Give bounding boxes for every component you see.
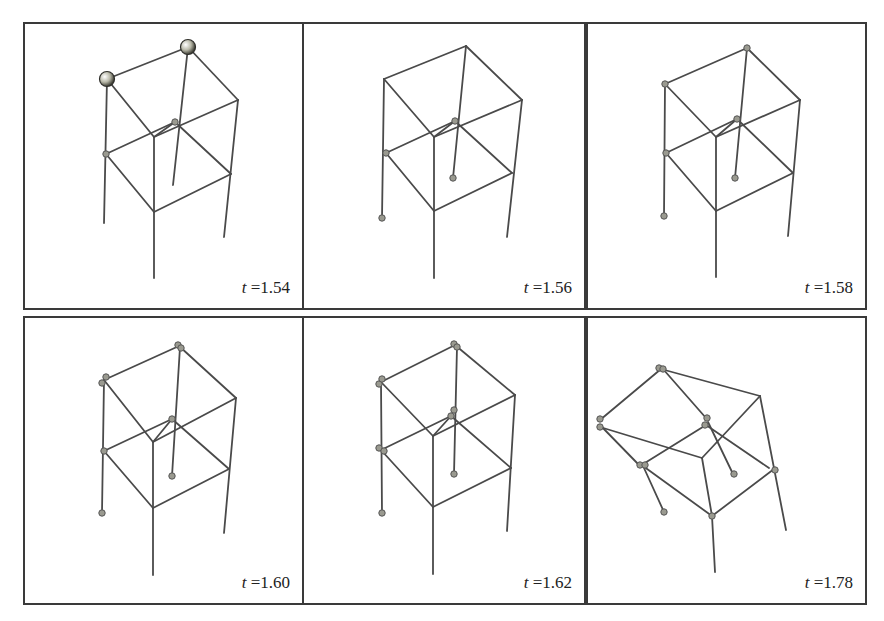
frame-member-line	[154, 100, 238, 137]
frame-member-line	[104, 346, 179, 380]
frame-panel-p4: t =1.60	[23, 316, 304, 605]
frame-member-line	[179, 346, 236, 398]
time-label: t =1.58	[805, 278, 853, 298]
fracture-node-icon	[661, 213, 667, 219]
fracture-node-icon	[662, 81, 668, 87]
frame-panel-p2: t =1.56	[302, 22, 586, 310]
fracture-node-icon	[451, 471, 457, 477]
time-label: t =1.78	[805, 573, 853, 593]
frame-member-line	[453, 46, 466, 178]
fracture-node-icon	[103, 151, 109, 157]
frame-member-line	[153, 469, 229, 508]
frame-member-line	[107, 79, 154, 137]
frame-member-line	[154, 174, 231, 212]
fracture-node-icon	[450, 175, 456, 181]
frame-member-line	[643, 466, 712, 516]
fracture-node-icon	[702, 422, 708, 428]
time-label: t =1.54	[242, 278, 290, 298]
frame-member-line	[102, 380, 104, 513]
fracture-node-icon	[744, 45, 750, 51]
frame-member-line	[716, 100, 800, 137]
frame-member-line	[712, 516, 715, 572]
frame-member-line	[153, 398, 236, 442]
fracture-node-icon	[642, 462, 648, 468]
frame-member-line	[455, 121, 512, 173]
frame-panel-p5: t =1.62	[302, 316, 586, 605]
frame-member-line	[600, 425, 640, 466]
fracture-node-icon	[169, 416, 175, 422]
frame-member-line	[104, 380, 153, 442]
fracture-node-icon	[663, 150, 669, 156]
fracture-node-icon	[379, 510, 385, 516]
frame-member-line	[702, 458, 712, 516]
frame-member-line	[433, 468, 511, 507]
frame-member-line	[666, 153, 716, 211]
frame-member-line	[104, 451, 153, 508]
frame-member-line	[747, 48, 800, 100]
frame-member-line	[175, 122, 231, 174]
mass-sphere-icon	[181, 40, 196, 55]
fracture-node-icon	[660, 366, 666, 372]
frame-structure-drawing	[25, 318, 306, 607]
fracture-node-icon	[732, 175, 738, 181]
frame-member-line	[434, 100, 522, 137]
frame-member-line	[712, 469, 774, 516]
frame-panel-p3: t =1.58	[586, 22, 867, 310]
frame-member-line	[666, 119, 737, 153]
fracture-node-icon	[661, 509, 667, 515]
frame-member-line	[600, 369, 661, 420]
fracture-node-icon	[379, 215, 385, 221]
fracture-node-icon	[169, 473, 175, 479]
time-value: =1.60	[246, 573, 290, 592]
frame-member-line	[433, 416, 451, 436]
fracture-node-icon	[103, 374, 109, 380]
frame-member-line	[451, 416, 511, 468]
fracture-node-icon	[379, 376, 385, 382]
frame-member-line	[172, 347, 180, 476]
time-value: =1.58	[809, 278, 853, 297]
fracture-node-icon	[452, 118, 458, 124]
frame-member-line	[382, 79, 384, 218]
frame-structure-drawing	[25, 24, 306, 312]
frame-member-line	[737, 119, 793, 173]
frame-member-line	[600, 427, 702, 458]
frame-member-line	[106, 122, 175, 154]
time-label: t =1.60	[242, 573, 290, 593]
frame-member-line	[434, 173, 512, 211]
frame-member-line	[384, 79, 434, 137]
frame-member-line	[381, 450, 433, 507]
fracture-node-icon	[772, 467, 778, 473]
frame-member-line	[507, 395, 515, 531]
frame-panel-p1: t =1.54	[23, 22, 304, 310]
frame-member-line	[665, 84, 716, 137]
frame-member-line	[386, 121, 455, 153]
time-label: t =1.62	[524, 573, 572, 593]
frame-member-line	[507, 100, 522, 237]
frame-member-line	[173, 47, 188, 185]
time-value: =1.56	[528, 278, 572, 297]
frame-member-line	[433, 395, 515, 436]
fracture-node-icon	[597, 416, 603, 422]
frame-member-line	[106, 154, 154, 212]
frame-member-line	[663, 369, 706, 418]
frame-member-line	[706, 425, 769, 468]
fracture-node-icon	[101, 448, 107, 454]
frame-structure-drawing	[304, 318, 588, 607]
frame-member-line	[107, 47, 188, 79]
frame-member-line	[153, 419, 172, 442]
frame-member-line	[788, 100, 800, 236]
frame-member-line	[640, 425, 706, 466]
fracture-node-icon	[704, 415, 710, 421]
fracture-node-icon	[383, 150, 389, 156]
frame-structure-drawing	[304, 24, 588, 312]
frame-structure-drawing	[588, 24, 869, 312]
frame-panel-p6: t =1.78	[586, 316, 867, 605]
fracture-node-icon	[99, 510, 105, 516]
frame-member-line	[665, 48, 747, 84]
fracture-node-icon	[381, 448, 387, 454]
fracture-node-icon	[734, 116, 740, 122]
fracture-node-icon	[448, 413, 454, 419]
frame-member-line	[381, 345, 455, 382]
frame-member-line	[735, 48, 747, 178]
frame-member-line	[760, 396, 786, 530]
